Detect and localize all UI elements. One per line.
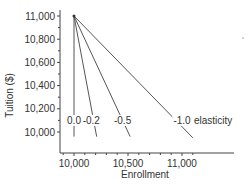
annotations-group: 0.0-0.2-0.5-1.0elasticity	[66, 115, 233, 126]
origin-point	[73, 15, 76, 18]
annotation-label: -0.2	[83, 115, 101, 126]
y-tick-label: 10,400	[24, 80, 55, 91]
annotation-label: -1.0	[173, 115, 191, 126]
x-tick-label: 10,000	[59, 158, 90, 169]
y-axis-title: Tuition ($)	[4, 73, 15, 118]
annotation-label: 0.0	[67, 115, 81, 126]
annotation-label: -0.5	[114, 115, 132, 126]
y-tick-label: 11,000	[25, 11, 55, 22]
y-tick-label: 10,800	[24, 34, 55, 45]
stray-dot	[242, 37, 243, 38]
y-tick-label: 10,000	[24, 127, 55, 138]
y-tick-label: 10,600	[24, 57, 55, 68]
x-axis-title: Enrollment	[121, 169, 169, 180]
x-tick-label: 11,000	[167, 158, 197, 169]
elasticity-chart: 10,00010,20010,40010,60010,80011,00010,0…	[0, 0, 249, 184]
x-tick-label: 10,500	[113, 158, 144, 169]
axes: 10,00010,20010,40010,60010,80011,00010,0…	[24, 10, 234, 169]
annotation-label: elasticity	[194, 115, 232, 126]
y-tick-label: 10,200	[24, 103, 55, 114]
